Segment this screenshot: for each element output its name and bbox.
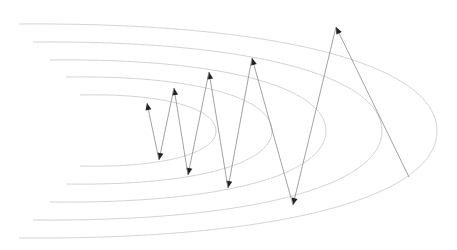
contour-3 — [50, 60, 326, 202]
step-line — [293, 27, 336, 205]
contour-2 — [66, 77, 272, 184]
contour-diagram — [0, 0, 457, 250]
contour-5 — [19, 24, 437, 238]
step-line — [147, 103, 159, 160]
diagram-canvas — [0, 0, 457, 250]
step-line — [336, 27, 409, 177]
step-line — [174, 88, 188, 175]
zigzag-path — [146, 27, 409, 205]
contour-lines — [19, 24, 437, 238]
step-line — [252, 58, 293, 205]
step-line — [228, 58, 252, 188]
step-line — [188, 72, 209, 175]
arrowhead-icon — [146, 103, 152, 110]
step-line — [159, 88, 174, 160]
